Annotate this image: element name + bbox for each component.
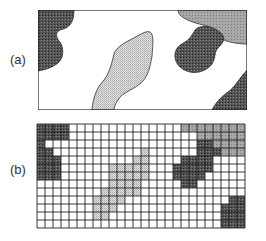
- grid-cell-dark: [37, 140, 45, 148]
- grid-cell-medium: [189, 124, 197, 132]
- grid-cell-dark: [221, 212, 229, 220]
- grid-cell-dark: [237, 196, 245, 204]
- grid-cell-medium: [221, 140, 229, 148]
- grid-cell-light: [101, 212, 109, 220]
- grid-cell-dark: [37, 156, 45, 164]
- grid-cell-medium: [229, 140, 237, 148]
- grid-cell-light: [133, 156, 141, 164]
- grid-cell-dark: [45, 172, 53, 180]
- grid-cell-medium: [229, 148, 237, 156]
- grid-cell-light: [117, 172, 125, 180]
- grid-cell-light: [125, 172, 133, 180]
- grid-cell-medium: [221, 132, 229, 140]
- grid-cell-medium: [237, 124, 245, 132]
- grid-cell-medium: [213, 124, 221, 132]
- grid-cell-light: [117, 196, 125, 204]
- grid-cell-light: [133, 164, 141, 172]
- grid-cell-light: [109, 196, 117, 204]
- grid-cell-dark: [189, 156, 197, 164]
- grid-cell-dark: [197, 148, 205, 156]
- grid-cell-light: [133, 172, 141, 180]
- grid-cell-light: [101, 196, 109, 204]
- grid-cell-medium: [205, 124, 213, 132]
- grid-cell-dark: [189, 172, 197, 180]
- grid-cell-dark: [53, 156, 61, 164]
- grid-cell-medium: [237, 132, 245, 140]
- grid-cell-medium: [213, 132, 221, 140]
- grid-cell-dark: [213, 148, 221, 156]
- panel-a: [38, 10, 247, 110]
- grid-cell-light: [141, 164, 149, 172]
- grid-cell-medium: [221, 148, 229, 156]
- grid-cell-light: [93, 204, 101, 212]
- grid-cell-light: [125, 180, 133, 188]
- grid-cell-medium: [229, 124, 237, 132]
- grid-cell-light: [141, 148, 149, 156]
- grid-cell-dark: [37, 132, 45, 140]
- grid-cell-dark: [45, 132, 53, 140]
- grid-cell-medium: [229, 132, 237, 140]
- grid-cell-dark: [173, 164, 181, 172]
- grid-cell-dark: [53, 132, 61, 140]
- grid-cell-light: [125, 188, 133, 196]
- grid-cell-dark: [237, 204, 245, 212]
- grid-cell-dark: [61, 124, 69, 132]
- grid-cell-medium: [197, 124, 205, 132]
- grid-cell-medium: [237, 140, 245, 148]
- grid-cell-dark: [53, 172, 61, 180]
- grid-cell-light: [109, 188, 117, 196]
- grid-cell-dark: [45, 156, 53, 164]
- diagram-canvas: [0, 0, 266, 241]
- grid-cell-dark: [45, 164, 53, 172]
- grid-cell-dark: [205, 164, 213, 172]
- grid-cell-dark: [237, 212, 245, 220]
- grid-cell-dark: [197, 156, 205, 164]
- grid-cell-light: [109, 172, 117, 180]
- grid-cell-dark: [45, 148, 53, 156]
- grid-cell-dark: [229, 196, 237, 204]
- grid-cell-dark: [197, 172, 205, 180]
- grid-cell-dark: [181, 164, 189, 172]
- grid-cell-light: [93, 196, 101, 204]
- grid-cell-dark: [181, 180, 189, 188]
- grid-cell-light: [117, 180, 125, 188]
- grid-cell-light: [101, 188, 109, 196]
- grid-cell-dark: [229, 212, 237, 220]
- grid-cell-medium: [221, 124, 229, 132]
- grid-cell-dark: [181, 172, 189, 180]
- grid-cell-dark: [61, 132, 69, 140]
- grid-cell-dark: [197, 140, 205, 148]
- grid-cell-dark: [197, 164, 205, 172]
- grid-cell-dark: [205, 156, 213, 164]
- grid-cell-dark: [37, 148, 45, 156]
- grid-cell-dark: [221, 204, 229, 212]
- grid-cell-medium: [181, 124, 189, 132]
- grid-cell-dark: [37, 164, 45, 172]
- grid-cell-light: [109, 204, 117, 212]
- grid-cell-dark: [189, 180, 197, 188]
- grid-cell-light: [141, 172, 149, 180]
- panel-b-grid-lines: [37, 124, 245, 228]
- grid-cell-light: [101, 204, 109, 212]
- grid-cell-light: [109, 164, 117, 172]
- grid-cell-medium: [237, 148, 245, 156]
- grid-cell-light: [141, 156, 149, 164]
- grid-cell-dark: [37, 124, 45, 132]
- grid-cell-medium: [205, 132, 213, 140]
- grid-cell-light: [93, 212, 101, 220]
- grid-cell-light: [117, 164, 125, 172]
- grid-cell-light: [125, 164, 133, 172]
- grid-cell-dark: [229, 204, 237, 212]
- grid-cell-dark: [189, 164, 197, 172]
- grid-cell-light: [117, 188, 125, 196]
- grid-cell-dark: [53, 124, 61, 132]
- grid-cell-dark: [205, 140, 213, 148]
- grid-cell-dark: [205, 148, 213, 156]
- grid-cell-dark: [173, 172, 181, 180]
- grid-cell-medium: [213, 140, 221, 148]
- grid-cell-dark: [45, 124, 53, 132]
- grid-cell-light: [109, 180, 117, 188]
- grid-cell-dark: [37, 172, 45, 180]
- grid-cell-dark: [237, 220, 245, 228]
- grid-cell-light: [133, 180, 141, 188]
